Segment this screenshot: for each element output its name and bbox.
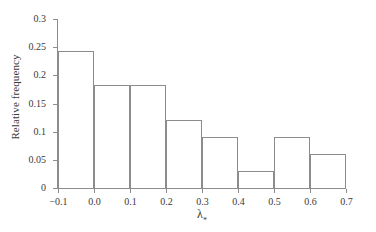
histogram-figure: Relative frequency λ* 00.050.10.150.20.2… (0, 0, 376, 232)
x-tick: 0.5 (274, 189, 275, 193)
y-tick-label: 0.1 (34, 125, 47, 138)
y-tick-label: 0 (41, 181, 46, 194)
x-tick: −0.1 (58, 189, 59, 193)
y-tick-label: 0.25 (29, 40, 47, 53)
y-tick: 0.25 (53, 47, 57, 48)
x-tick-label: 0.6 (304, 195, 317, 208)
histogram-bar (94, 85, 130, 188)
x-tick-label: 0.3 (196, 195, 209, 208)
x-tick: 0.7 (346, 189, 347, 193)
x-axis-title: λ* (58, 207, 346, 226)
y-axis-title: Relative frequency (8, 2, 22, 192)
histogram-bar (274, 137, 310, 188)
histogram-bar (130, 85, 166, 188)
x-tick: 0.2 (166, 189, 167, 193)
x-tick-label: 0.4 (232, 195, 245, 208)
y-tick: 0 (53, 188, 57, 189)
y-tick: 0.1 (53, 132, 57, 133)
histogram-bar (166, 120, 202, 188)
histogram-bar (238, 171, 274, 188)
plot-area: 00.050.10.150.20.250.3 −0.10.00.10.20.30… (58, 19, 346, 188)
y-tick: 0.15 (53, 104, 57, 105)
y-tick: 0.05 (53, 160, 57, 161)
histogram-bar (58, 51, 94, 188)
y-tick: 0.3 (53, 19, 57, 20)
x-tick-label: 0.7 (340, 195, 353, 208)
y-tick-label: 0.3 (34, 12, 47, 25)
x-tick-label: −0.1 (49, 195, 67, 208)
histogram-bar (202, 137, 238, 188)
x-tick-label: 0.2 (160, 195, 173, 208)
y-tick: 0.2 (53, 75, 57, 76)
x-tick-label: 0.5 (268, 195, 281, 208)
x-tick: 0.0 (94, 189, 95, 193)
x-tick: 0.6 (310, 189, 311, 193)
x-tick: 0.1 (130, 189, 131, 193)
x-tick-label: 0.0 (88, 195, 101, 208)
y-tick-label: 0.2 (34, 68, 47, 81)
y-tick-label: 0.15 (29, 97, 47, 110)
x-axis-title-subscript: * (203, 216, 207, 225)
y-tick-label: 0.05 (29, 153, 47, 166)
x-tick: 0.3 (202, 189, 203, 193)
x-tick: 0.4 (238, 189, 239, 193)
x-tick-label: 0.1 (124, 195, 137, 208)
histogram-bar (310, 154, 346, 188)
